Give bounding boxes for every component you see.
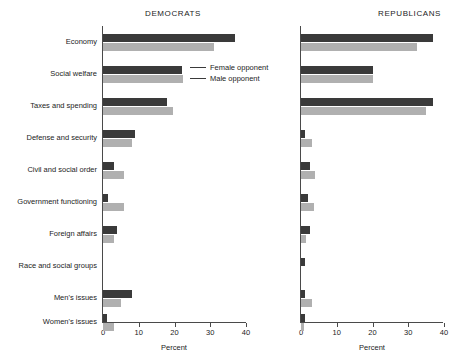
category-label: Men's issues — [54, 293, 97, 302]
x-tick — [175, 323, 176, 327]
category-label: Foreign affairs — [49, 229, 97, 238]
bar-male — [103, 203, 124, 211]
x-tick — [337, 323, 338, 327]
x-tick-label: 40 — [242, 328, 250, 337]
bar-female — [301, 34, 433, 42]
category-label: Social welfare — [50, 69, 97, 78]
plot-area-republicans: 010203040 Percent — [300, 26, 445, 322]
bar-female — [301, 290, 305, 298]
bar-male — [301, 203, 314, 211]
bar-female — [103, 226, 117, 234]
bar-female — [301, 194, 308, 202]
bar-male — [301, 171, 315, 179]
bar-female — [103, 194, 108, 202]
bar-female — [103, 98, 167, 106]
x-axis-title-republicans: Percent — [359, 343, 385, 352]
panel-title-republicans: REPUBLICANS — [378, 9, 441, 18]
bar-male — [301, 323, 304, 331]
x-tick — [408, 323, 409, 327]
bar-male — [103, 299, 121, 307]
bar-female — [301, 98, 433, 106]
bar-female — [301, 162, 310, 170]
panel-title-democrats: DEMOCRATS — [145, 9, 201, 18]
bar-female — [103, 130, 135, 138]
category-label: Defense and security — [27, 133, 97, 142]
x-axis-line-republicans — [300, 322, 443, 323]
bar-male — [103, 107, 173, 115]
x-tick — [210, 323, 211, 327]
x-tick — [246, 323, 247, 327]
x-tick — [139, 323, 140, 327]
bar-female — [301, 258, 305, 266]
bar-female — [103, 66, 182, 74]
panel-democrats: DEMOCRATS 010203040 EconomySocial welfar… — [0, 0, 260, 360]
x-tick-label: 10 — [333, 328, 341, 337]
bar-male — [301, 235, 306, 243]
bar-male — [301, 299, 312, 307]
category-label: Civil and social order — [27, 165, 97, 174]
bar-male — [103, 235, 114, 243]
bar-female — [103, 162, 114, 170]
legend-entry-female: Female opponent — [190, 61, 268, 72]
legend-line-icon-female — [190, 67, 206, 68]
category-label: Taxes and spending — [30, 101, 97, 110]
bar-male — [301, 139, 312, 147]
category-label: Government functioning — [17, 197, 97, 206]
legend-label-male: Male opponent — [210, 74, 260, 83]
x-tick-label: 30 — [404, 328, 412, 337]
bar-female — [301, 66, 373, 74]
bar-female — [103, 290, 132, 298]
x-tick — [444, 323, 445, 327]
bar-male — [103, 171, 124, 179]
x-tick-label: 30 — [206, 328, 214, 337]
bar-male — [301, 75, 373, 83]
category-label: Economy — [66, 37, 97, 46]
x-tick-label: 20 — [368, 328, 376, 337]
bar-male — [103, 75, 183, 83]
x-tick — [373, 323, 374, 327]
bar-male — [103, 43, 214, 51]
bar-female — [103, 314, 107, 322]
x-axis-title-democrats: Percent — [161, 343, 187, 352]
bar-female — [103, 34, 235, 42]
bar-male — [103, 139, 132, 147]
x-tick-label: 20 — [170, 328, 178, 337]
bar-female — [301, 226, 310, 234]
legend: Female opponent Male opponent — [190, 61, 268, 83]
panel-republicans: REPUBLICANS 010203040 Percent — [258, 0, 457, 360]
category-label: Women's issues — [43, 317, 97, 326]
bar-male — [301, 43, 417, 51]
bar-female — [301, 314, 305, 322]
category-label: Race and social groups — [19, 261, 97, 270]
bar-female — [301, 130, 305, 138]
bar-male — [301, 107, 426, 115]
legend-entry-male: Male opponent — [190, 72, 268, 83]
figure-root: DEMOCRATS 010203040 EconomySocial welfar… — [0, 0, 457, 360]
legend-line-icon-male — [190, 78, 206, 79]
x-tick-label: 40 — [440, 328, 448, 337]
bar-male — [103, 323, 114, 331]
x-tick-label: 10 — [135, 328, 143, 337]
